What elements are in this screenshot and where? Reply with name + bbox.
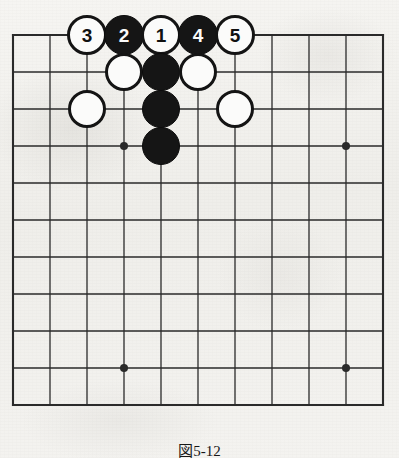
move-number-label: 3 [82, 26, 93, 45]
go-stone-white [68, 90, 106, 128]
go-stone-white [179, 53, 217, 91]
go-stone-white [216, 90, 254, 128]
star-point [342, 364, 350, 372]
go-stone-move-1: 1 [141, 15, 181, 55]
move-number-label: 4 [193, 26, 204, 45]
go-stone-move-3: 3 [67, 15, 107, 55]
go-stone-move-2: 2 [104, 15, 144, 55]
star-point [120, 142, 128, 150]
go-stone-move-4: 4 [178, 15, 218, 55]
go-stone-move-5: 5 [215, 15, 255, 55]
move-number-label: 1 [156, 26, 167, 45]
star-point [120, 364, 128, 372]
move-number-label: 2 [119, 26, 130, 45]
go-stone-white [105, 53, 143, 91]
go-stone-black [142, 127, 180, 165]
figure-page: 32145 図5-12 [0, 0, 399, 458]
figure-caption: 図5-12 [0, 439, 399, 458]
go-stone-black [142, 90, 180, 128]
move-number-label: 5 [230, 26, 241, 45]
go-stone-black [142, 53, 180, 91]
star-point [342, 142, 350, 150]
